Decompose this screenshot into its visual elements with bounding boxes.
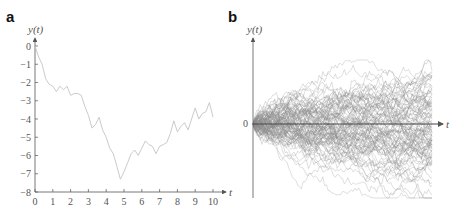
y-tick-label: 0: [26, 41, 31, 52]
x-tick-label: 7: [157, 196, 162, 207]
x-tick-label: 2: [68, 196, 73, 207]
y-tick-label: −3: [20, 95, 31, 106]
panel-b-label: b: [228, 8, 237, 25]
y-tick-label: −7: [20, 168, 31, 179]
panel-b-zero-label: 0: [243, 118, 248, 129]
x-tick-label: 5: [122, 196, 127, 207]
y-tick-label: −8: [20, 187, 31, 198]
panel-a-label: a: [6, 8, 15, 25]
x-tick-label: 1: [50, 196, 55, 207]
x-tick-label: 0: [33, 196, 38, 207]
x-tick-label: 8: [175, 196, 180, 207]
x-tick-label: 4: [104, 196, 109, 207]
panel-a-ticks: 0123456789100−1−2−3−4−5−6−7−8: [20, 41, 218, 208]
x-tick-label: 6: [139, 196, 144, 207]
x-tick-label: 3: [86, 196, 91, 207]
panel-a-xlabel: t: [229, 186, 233, 198]
y-tick-label: −2: [20, 77, 31, 88]
panel-a-walk-line: [35, 46, 213, 179]
panel-b-walk-paths: [253, 60, 432, 198]
panel-b-ylabel: y(t): [246, 23, 263, 36]
y-tick-label: −4: [20, 114, 31, 125]
panel-a: a y(t) t 0123456789100−1−2−3−4−5−6−7−8: [6, 8, 233, 207]
y-tick-label: −1: [20, 59, 31, 70]
y-tick-label: −6: [20, 150, 31, 161]
figure: a y(t) t 0123456789100−1−2−3−4−5−6−7−8 b…: [0, 0, 464, 215]
y-tick-label: −5: [20, 132, 31, 143]
panel-b: b y(t) 0 t: [228, 8, 450, 198]
panel-a-ylabel: y(t): [27, 23, 44, 36]
panel-b-xlabel: t: [446, 118, 450, 130]
x-tick-label: 9: [193, 196, 198, 207]
x-tick-label: 10: [208, 196, 218, 207]
